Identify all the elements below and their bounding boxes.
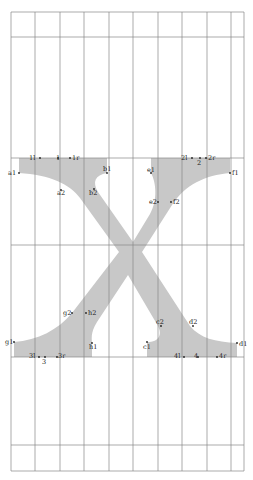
point-label: 1r [72, 154, 80, 162]
point-label: 4r [219, 352, 227, 360]
point-label: 3r [58, 352, 66, 360]
point-label: 2 [197, 159, 201, 167]
anchor-point-f1 [229, 172, 231, 174]
anchor-point-d1 [236, 342, 238, 344]
point-label: e1 [147, 166, 155, 174]
point-label: h1 [89, 343, 97, 351]
anchor-point-2l [191, 157, 193, 159]
anchor-point-1l [39, 157, 41, 159]
point-label: g2 [63, 309, 71, 317]
anchor-point-f2 [170, 201, 172, 203]
point-label: 2l [181, 154, 187, 162]
anchor-point-4r [216, 356, 218, 358]
anchor-point-3l [38, 356, 40, 358]
anchor-point-1r [69, 157, 71, 159]
point-label: 3 [42, 358, 46, 366]
point-label: c1 [143, 343, 151, 351]
point-label: g1 [5, 338, 13, 346]
anchor-point-g2 [71, 312, 73, 314]
anchor-point-2r [205, 157, 207, 159]
anchor-point-a1 [18, 172, 20, 174]
point-label: f1 [232, 169, 239, 177]
point-label: 3l [29, 352, 35, 360]
point-label: a1 [8, 169, 16, 177]
point-label: b1 [103, 165, 111, 173]
glyph-diagram: a11l11ra2b1b2e12l22rf1e2f2g2h2g1h13l33rc… [0, 0, 253, 480]
point-label: 2r [208, 154, 216, 162]
point-label: 4l [174, 352, 180, 360]
point-label: 1 [56, 154, 60, 162]
point-label: d2 [189, 318, 197, 326]
anchor-point-4l [183, 356, 185, 358]
point-label: 1l [29, 154, 35, 162]
glyph-x-shape [14, 158, 237, 357]
anchor-point-e2 [157, 201, 159, 203]
point-label: b2 [89, 189, 97, 197]
point-label: e2 [149, 198, 157, 206]
point-label: a2 [57, 189, 65, 197]
point-label: 4 [194, 352, 198, 360]
point-label: c2 [156, 318, 164, 326]
point-label: d1 [239, 340, 247, 348]
anchor-point-g1 [13, 341, 15, 343]
point-label: f2 [173, 198, 180, 206]
anchor-point-h2 [85, 312, 87, 314]
point-label: h2 [88, 309, 96, 317]
